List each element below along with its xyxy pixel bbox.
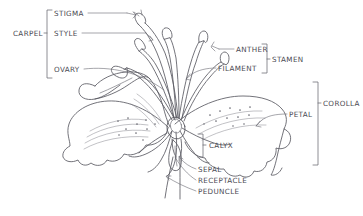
label-calyx: CALYX — [209, 141, 233, 150]
label-style: STYLE — [54, 29, 78, 38]
label-anther: ANTHER — [236, 45, 268, 54]
bracket-carpel — [44, 10, 52, 78]
label-filament: FILAMENT — [218, 64, 257, 73]
stamens-group — [111, 28, 229, 121]
label-stamen: STAMEN — [272, 55, 304, 64]
leader-stigma — [88, 12, 136, 18]
leader-peduncle — [166, 176, 196, 191]
carpel-style-stigma — [134, 10, 178, 118]
petal-left-large — [63, 101, 168, 165]
label-stigma: STIGMA — [54, 9, 84, 18]
label-petal: PETAL — [289, 110, 312, 119]
label-text-group: CARPEL STIGMA STYLE OVARY ANTHER FILAMEN… — [13, 9, 360, 196]
petal-right-large — [175, 96, 291, 177]
label-carpel: CARPEL — [13, 29, 43, 38]
annotation-lines — [44, 10, 321, 191]
leader-style — [82, 33, 153, 41]
petal-upper-middle — [131, 79, 170, 127]
leader-receptacle — [175, 157, 196, 180]
flower-diagram-svg: .ink { fill:none; stroke:#5a5a62; stroke… — [0, 0, 363, 216]
flower-drawing — [63, 10, 291, 199]
botanical-diagram-page: .ink { fill:none; stroke:#5a5a62; stroke… — [0, 0, 363, 216]
bracket-corolla — [313, 82, 321, 165]
label-peduncle: PEDUNCLE — [198, 187, 240, 196]
label-ovary: OVARY — [54, 65, 80, 74]
label-receptacle: RECEPTACLE — [198, 176, 247, 185]
leader-anther — [211, 42, 234, 51]
label-corolla: COROLLA — [323, 99, 360, 108]
label-sepal: SEPAL — [198, 165, 222, 174]
leader-ovary — [84, 68, 164, 90]
